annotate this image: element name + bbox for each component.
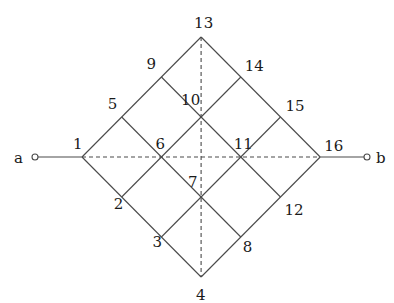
terminal-b-label: b: [376, 149, 386, 167]
node-labels: ab12345678910111213141516: [14, 14, 386, 303]
node-label-16: 16: [324, 137, 343, 155]
node-label-8: 8: [243, 238, 253, 256]
terminal-b-circle: [364, 154, 370, 160]
node-label-12: 12: [285, 201, 304, 219]
node-label-2: 2: [114, 195, 124, 213]
terminal-a-circle: [32, 154, 38, 160]
node-label-5: 5: [108, 95, 118, 113]
grid-edge: [161, 77, 280, 197]
terminal-a-label: a: [14, 149, 23, 167]
node-label-10: 10: [181, 91, 200, 109]
grid-edge: [122, 117, 241, 237]
node-label-6: 6: [155, 135, 165, 153]
node-label-13: 13: [194, 14, 213, 32]
node-label-7: 7: [188, 173, 198, 191]
node-label-15: 15: [286, 97, 305, 115]
node-label-9: 9: [146, 55, 156, 73]
node-label-14: 14: [245, 57, 264, 75]
node-label-11: 11: [234, 135, 253, 153]
grid-edge: [82, 157, 201, 277]
dashed-axes: [82, 37, 320, 277]
node-label-3: 3: [152, 233, 162, 251]
grid-diagram: ab12345678910111213141516: [0, 0, 394, 303]
node-label-1: 1: [73, 135, 83, 153]
node-label-4: 4: [196, 286, 206, 303]
grid-edge: [161, 117, 280, 237]
